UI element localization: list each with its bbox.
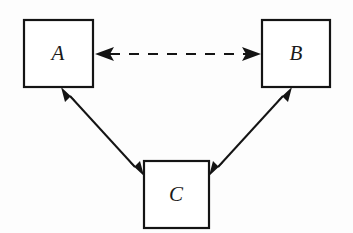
edge-a-c-line — [70, 96, 135, 167]
edge-b-c — [209, 87, 292, 176]
node-c-label: C — [169, 182, 184, 206]
diagram-canvas: B --> C --> C --> A B — [0, 0, 353, 233]
node-c[interactable]: C — [144, 161, 209, 228]
node-a-label: A — [50, 41, 65, 65]
edge-a-c — [61, 87, 144, 176]
node-a[interactable]: A — [24, 20, 93, 87]
edge-a-b — [95, 47, 261, 61]
node-b[interactable]: B — [262, 20, 330, 87]
edge-b-c-line — [218, 96, 283, 167]
node-b-label: B — [290, 41, 303, 65]
diagram-svg: B --> C --> C --> A B — [0, 0, 353, 233]
